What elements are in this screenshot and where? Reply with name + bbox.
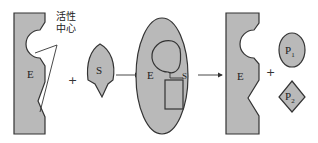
active-site-label-line2: 中心 bbox=[56, 22, 76, 34]
enzyme-left-label: E bbox=[27, 68, 34, 80]
complex-substrate-rect bbox=[165, 80, 183, 109]
enzyme-left: E bbox=[14, 13, 45, 134]
enzyme-substrate-complex: E S bbox=[136, 18, 188, 134]
active-site-label-line1: 活性 bbox=[56, 10, 76, 22]
enzyme-right-label: E bbox=[237, 70, 244, 82]
product-2: P2 bbox=[279, 81, 305, 112]
product-1: P1 bbox=[279, 33, 305, 67]
enzyme-right: E bbox=[226, 13, 259, 134]
enzyme-reaction-diagram: E 活性 中心 + S E S E + P1 P2 bbox=[0, 0, 318, 143]
substrate: S bbox=[88, 44, 114, 97]
substrate-label: S bbox=[96, 64, 102, 76]
plus-sign-2: + bbox=[266, 66, 275, 79]
complex-substrate-label: S bbox=[182, 71, 187, 81]
complex-enzyme-ellipse bbox=[136, 18, 188, 134]
complex-enzyme-label: E bbox=[147, 69, 154, 81]
product-1-shape bbox=[279, 33, 305, 67]
plus-sign-1: + bbox=[68, 74, 77, 87]
